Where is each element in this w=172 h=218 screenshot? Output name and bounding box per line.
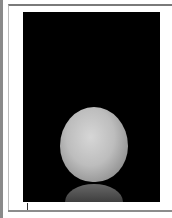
- fruit-reflection: [65, 184, 123, 202]
- orange-fruit-image: [60, 107, 128, 182]
- text-cursor: [27, 203, 28, 210]
- embedded-photo[interactable]: [23, 12, 160, 202]
- page-bottom-border: [8, 210, 172, 212]
- window-left-edge: [0, 0, 3, 218]
